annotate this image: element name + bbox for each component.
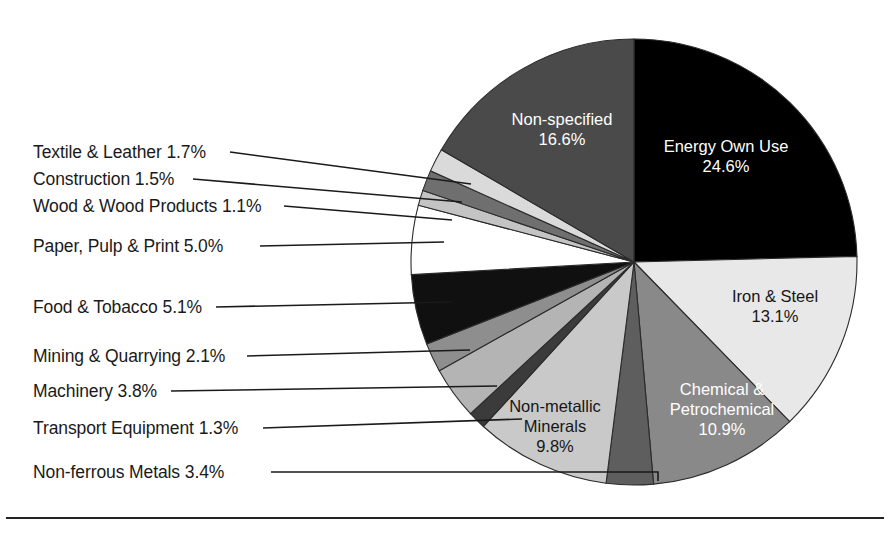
leader-labels-group: Non-ferrous Metals 3.4%Transport Equipme… <box>33 142 261 482</box>
leader-label: Machinery 3.8% <box>33 381 157 401</box>
leader-label: Food & Tobacco 5.1% <box>33 297 202 317</box>
leader-line <box>171 386 497 391</box>
leader-label: Transport Equipment 1.3% <box>33 418 238 438</box>
industry-energy-consumption-pie-chart: Energy Own Use24.6%Iron & Steel13.1%Chem… <box>0 0 890 535</box>
leader-label: Textile & Leather 1.7% <box>33 142 206 162</box>
pie-chart-page: Energy Own Use24.6%Iron & Steel13.1%Chem… <box>0 0 890 535</box>
leader-label: Construction 1.5% <box>33 169 174 189</box>
leader-label: Mining & Quarrying 2.1% <box>33 346 225 366</box>
leader-label: Wood & Wood Products 1.1% <box>33 196 261 216</box>
leader-label: Paper, Pulp & Print 5.0% <box>33 236 223 256</box>
pie-slices-group <box>411 39 857 485</box>
leader-label: Non-ferrous Metals 3.4% <box>33 462 224 482</box>
